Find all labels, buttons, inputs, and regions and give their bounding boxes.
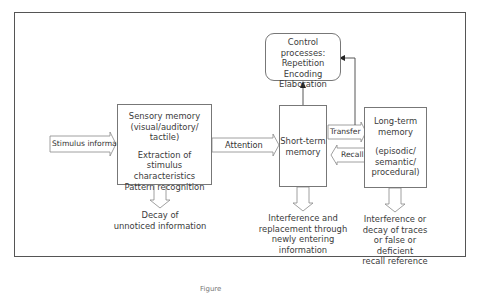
- control-line-4: Elaboration: [266, 79, 340, 90]
- sensory-detail-2: stimulus characteristics: [118, 160, 211, 181]
- recall-label: Recall: [341, 150, 364, 160]
- attention-label: Attention: [225, 140, 263, 150]
- sensory-outcome-line-1: Decay of: [110, 210, 210, 221]
- ltm-outcome-line-1: Interference or: [357, 214, 433, 225]
- ltm-detail-2: semantic/: [365, 157, 426, 168]
- stm-line-2: memory: [280, 147, 326, 158]
- sensory-memory-box: Sensory memory (visual/auditory/ tactile…: [117, 104, 212, 185]
- sensory-outcome: Decay of unnoticed information: [110, 210, 210, 231]
- stm-outcome-line-2: replacement through: [258, 224, 348, 235]
- sensory-detail-1: Extraction of: [118, 150, 211, 161]
- ltm-outcome-line-5: recall reference: [357, 256, 433, 267]
- control-processes-box: Control processes: Repetition Encoding E…: [265, 33, 341, 81]
- sensory-title-2: (visual/auditory/: [118, 122, 211, 133]
- short-term-memory-box: Short-term memory: [279, 105, 327, 187]
- sensory-outcome-line-2: unnoticed information: [110, 221, 210, 232]
- ltm-down-arrow: [385, 188, 405, 212]
- ltm-detail-3: procedural): [365, 167, 426, 178]
- sensory-detail-3: Pattern recognition: [118, 182, 211, 193]
- control-line-2: Repetition: [266, 58, 340, 69]
- control-line-1: Control processes:: [266, 37, 340, 58]
- stm-down-arrow: [293, 187, 313, 211]
- ltm-title-2: memory: [365, 127, 426, 138]
- sensory-title-3: tactile): [118, 132, 211, 143]
- stm-line-1: Short-term: [280, 136, 326, 147]
- ltm-detail-1: (episodic/: [365, 146, 426, 157]
- stm-outcome: Interference and replacement through new…: [258, 213, 348, 255]
- long-term-memory-box: Long-term memory (episodic/ semantic/ pr…: [364, 107, 427, 188]
- stm-outcome-line-3: newly entering: [258, 234, 348, 245]
- transfer-label: Transfer: [330, 127, 361, 137]
- ltm-outcome-line-2: decay of traces: [357, 225, 433, 236]
- stm-outcome-line-4: information: [258, 245, 348, 256]
- sensory-title-1: Sensory memory: [118, 111, 211, 122]
- ltm-outcome: Interference or decay of traces or false…: [357, 214, 433, 267]
- ltm-outcome-line-4: deficient: [357, 246, 433, 257]
- figure-caption: Figure: [200, 285, 221, 293]
- stm-outcome-line-1: Interference and: [258, 213, 348, 224]
- ltm-outcome-line-3: or false or: [357, 235, 433, 246]
- control-line-3: Encoding: [266, 69, 340, 80]
- ltm-title-1: Long-term: [365, 116, 426, 127]
